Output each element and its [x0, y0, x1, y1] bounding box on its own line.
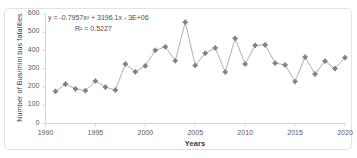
x-tick-label: 2015	[280, 129, 310, 136]
x-tick-label: 2020	[330, 129, 357, 136]
y-tick-label: 0	[18, 119, 40, 126]
data-point-marker	[73, 86, 78, 91]
data-point-marker	[143, 63, 148, 68]
data-point-marker	[243, 61, 248, 66]
data-point-marker	[103, 85, 108, 90]
y-tick-label: 500	[18, 27, 40, 34]
x-tick-label: 1990	[31, 129, 61, 136]
data-point-marker	[253, 43, 258, 48]
x-tick-label: 2010	[230, 129, 260, 136]
data-series-line	[55, 22, 345, 91]
y-tick-label: 300	[18, 64, 40, 71]
y-tick-label: 400	[18, 46, 40, 53]
data-point-marker	[153, 48, 158, 53]
data-point-marker	[273, 60, 278, 65]
data-point-marker	[113, 88, 118, 93]
y-tick-label: 100	[18, 100, 40, 107]
x-tick-label: 2000	[130, 129, 160, 136]
data-point-marker	[302, 54, 307, 59]
data-point-marker	[292, 79, 297, 84]
y-tick-label: 600	[18, 9, 40, 16]
data-point-marker	[263, 42, 268, 47]
data-point-marker	[233, 36, 238, 41]
data-point-marker	[283, 62, 288, 67]
data-point-marker	[183, 20, 188, 25]
chart-figure: Number of Bus/mini bus fatalities Years …	[0, 0, 357, 158]
data-markers	[53, 20, 348, 94]
x-tick-label: 2005	[180, 129, 210, 136]
x-tick-label: 1995	[80, 129, 110, 136]
data-point-marker	[213, 45, 218, 50]
y-tick-label: 200	[18, 82, 40, 89]
data-point-marker	[223, 69, 228, 74]
